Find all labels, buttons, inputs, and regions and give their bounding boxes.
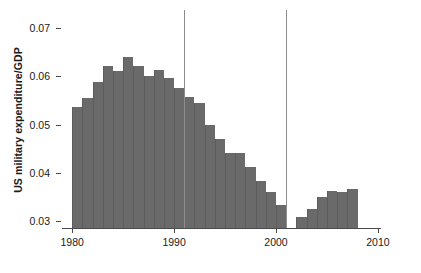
x-axis-tick <box>72 228 73 233</box>
y-axis-tick-label: 0.04 <box>0 167 50 179</box>
bar <box>307 209 317 228</box>
bar <box>327 191 337 228</box>
y-axis-tick <box>56 173 61 174</box>
bar <box>317 197 327 228</box>
x-axis-tick-label: 1990 <box>144 236 204 248</box>
y-axis-tick <box>56 76 61 77</box>
bar <box>205 125 215 229</box>
bar <box>266 192 276 228</box>
bar <box>235 153 245 228</box>
y-axis-tick-label: 0.07 <box>0 22 50 34</box>
bar <box>225 153 235 228</box>
y-axis-tick-label: 0.06 <box>0 70 50 82</box>
bar <box>72 107 82 228</box>
bar <box>215 139 225 228</box>
bar <box>194 103 204 228</box>
x-axis-tick-label: 2010 <box>348 236 408 248</box>
x-axis-tick <box>174 228 175 233</box>
bar <box>174 88 184 228</box>
bar <box>154 70 164 228</box>
bar <box>82 98 92 228</box>
x-axis-tick-label: 2000 <box>246 236 306 248</box>
bar <box>296 217 306 228</box>
x-axis-tick <box>378 228 379 233</box>
bar <box>93 82 103 228</box>
bar <box>337 192 347 228</box>
x-axis-tick-label: 1980 <box>42 236 102 248</box>
vline-2001 <box>286 10 287 228</box>
bar <box>123 57 133 228</box>
bar <box>164 78 174 228</box>
bar <box>133 66 143 228</box>
bar <box>144 76 154 228</box>
y-axis-tick <box>56 28 61 29</box>
bar <box>103 66 113 228</box>
bar <box>276 205 286 228</box>
bar <box>113 71 123 228</box>
bar <box>245 167 255 228</box>
vline-1991 <box>184 10 185 228</box>
chart-container: US military expenditure/GDP 198019902000… <box>0 0 421 273</box>
bar <box>184 97 194 228</box>
y-axis-tick-label: 0.05 <box>0 119 50 131</box>
y-axis-tick-label: 0.03 <box>0 215 50 227</box>
plot-area <box>62 21 381 228</box>
x-axis-tick <box>276 228 277 233</box>
x-axis-line <box>62 228 381 229</box>
y-axis-tick <box>56 221 61 222</box>
bar <box>347 189 357 228</box>
y-axis-tick <box>56 125 61 126</box>
bar <box>256 181 266 228</box>
